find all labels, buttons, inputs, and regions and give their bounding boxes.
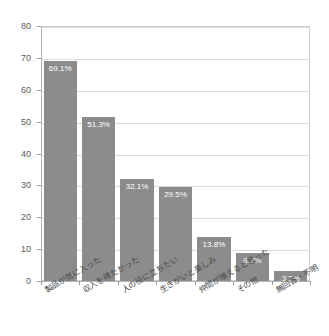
y-axis-line [41,26,42,281]
gridline [42,27,309,28]
y-axis-tick-label: 70 [7,53,31,63]
y-axis-tick-label: 20 [7,212,31,222]
y-axis-tick [37,217,41,218]
y-axis-tick-label: 30 [7,180,31,190]
bar-value-label: 69.1% [44,64,77,73]
x-axis-tick [41,281,42,285]
bar-chart: 01020304050607080 69.1%51.3%32.1%29.5%13… [0,0,329,336]
y-axis-tick-label: 40 [7,149,31,159]
y-axis-tick [37,26,41,27]
y-axis-tick-label: 60 [7,85,31,95]
x-axis-tick [118,281,119,285]
bar-value-label: 29.5% [159,190,192,199]
y-axis-tick-label: 80 [7,21,31,31]
y-axis-tick-label: 50 [7,117,31,127]
y-axis-tick [37,90,41,91]
x-axis-tick [156,281,157,285]
y-axis-tick [37,154,41,155]
y-axis-tick [37,249,41,250]
gridline [42,59,309,60]
bar: 69.1% [44,61,77,281]
y-axis-tick [37,122,41,123]
gridline [42,91,309,92]
x-axis-tick [310,281,311,285]
bar-value-label: 13.8% [197,240,230,249]
y-axis-tick-label: 10 [7,244,31,254]
x-axis-tick [272,281,273,285]
x-axis-tick [79,281,80,285]
x-axis-tick [195,281,196,285]
y-axis-tick [37,185,41,186]
bar-value-label: 51.3% [82,120,115,129]
x-axis-tick [233,281,234,285]
bar-value-label: 32.1% [120,182,153,191]
y-axis-tick-label: 0 [7,276,31,286]
y-axis-tick [37,58,41,59]
